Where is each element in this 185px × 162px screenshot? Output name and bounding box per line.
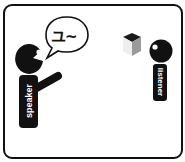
cube-icon [123,33,141,56]
speaker-eye [36,49,41,54]
listener-label: listener [156,68,164,96]
listener-head [150,40,173,63]
speaker-head [15,44,43,74]
speaker-label: speaker [24,84,33,118]
speaker-figure [15,44,58,128]
speech-text: ユ~ [51,25,77,46]
listener-eye [152,44,157,49]
